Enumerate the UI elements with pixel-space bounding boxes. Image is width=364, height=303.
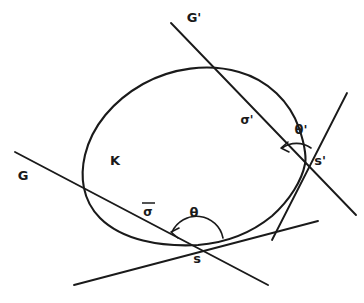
label-line-g: G bbox=[18, 168, 29, 183]
secant-line-g bbox=[15, 152, 268, 285]
label-theta-prime: θ' bbox=[295, 122, 308, 137]
secant-line-g-prime bbox=[171, 23, 356, 215]
label-line-g-prime: G' bbox=[187, 10, 202, 25]
diagram-canvas: K G G' σ σ' θ θ' s s' bbox=[0, 0, 364, 303]
label-point-s: s bbox=[193, 251, 201, 266]
label-curve-k: K bbox=[110, 153, 121, 168]
label-point-s-prime: s' bbox=[314, 153, 326, 168]
geometry-figure: K G G' σ σ' θ θ' s s' bbox=[0, 0, 364, 303]
label-sigma-prime: σ' bbox=[240, 113, 253, 127]
tangent-line-at-s-prime bbox=[272, 93, 347, 240]
angle-arc-theta bbox=[172, 216, 223, 238]
label-theta: θ bbox=[190, 205, 199, 220]
label-sigma: σ bbox=[143, 205, 152, 219]
